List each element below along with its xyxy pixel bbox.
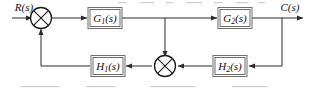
block-g1-base: G <box>93 12 101 24</box>
summing-junction-2 <box>155 56 176 77</box>
block-g2: G2(s) <box>218 8 252 29</box>
block-h2-arg: (s) <box>230 60 242 73</box>
block-h1-arg: (s) <box>108 60 120 73</box>
output-signal-label: C(s) <box>281 1 300 14</box>
block-diagram-figure: G1(s) G2(s) H1(s) H2(s) <box>0 0 315 89</box>
block-g1-arg: (s) <box>105 12 117 25</box>
block-h1: H1(s) <box>91 56 125 77</box>
output-signal-arg: (s) <box>288 1 300 14</box>
block-diagram-canvas: G1(s) G2(s) H1(s) H2(s) <box>0 0 315 89</box>
block-g2-base: G <box>223 12 231 24</box>
block-g1: G1(s) <box>88 8 122 29</box>
block-h2: H2(s) <box>213 56 247 77</box>
input-signal-label: R(s) <box>14 1 34 14</box>
block-g2-arg: (s) <box>235 12 247 25</box>
summing-junction-1 <box>31 8 52 29</box>
input-signal-arg: (s) <box>22 1 34 14</box>
